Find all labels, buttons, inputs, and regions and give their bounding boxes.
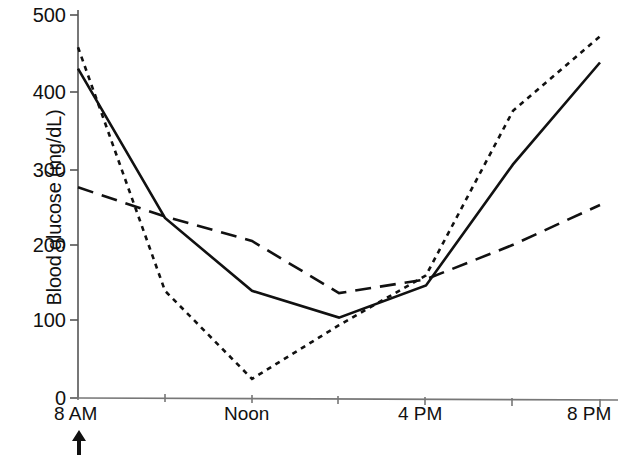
series-short-dotted — [78, 36, 600, 379]
y-axis-ticks — [70, 15, 78, 398]
blood-glucose-chart: Blood glucose (mg/dL) 500 400 300 200 10… — [0, 0, 620, 460]
series-group — [78, 36, 600, 379]
x-axis-line — [78, 398, 618, 400]
plot-area — [0, 0, 620, 460]
series-solid — [78, 63, 600, 318]
